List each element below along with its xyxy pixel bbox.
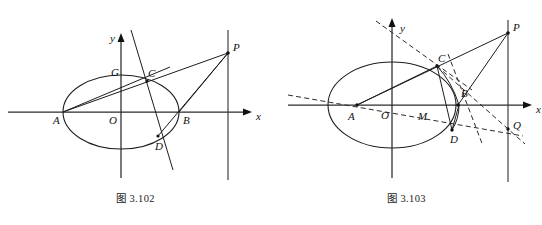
point-marker-p — [506, 31, 510, 35]
y-axis-label: y — [109, 32, 115, 44]
point-label-m: M — [417, 110, 428, 122]
point-label-o: O — [109, 114, 117, 126]
point-label-a: A — [347, 110, 355, 122]
point-label-a: A — [52, 114, 60, 126]
figure-caption-left: 图 3.102 — [0, 190, 271, 205]
point-marker-p — [226, 51, 230, 55]
x-axis-label: x — [255, 110, 261, 122]
y-axis-label: y — [399, 22, 405, 34]
point-marker-q — [506, 127, 509, 130]
figure-3-102: A O B C D G P x y 图 3.102 — [0, 0, 271, 225]
segment-cd-line — [131, 30, 173, 170]
x-axis-arrowhead — [243, 109, 252, 116]
figure-page: A O B C D G P x y 图 3.102 — [0, 0, 542, 225]
point-label-q: Q — [513, 119, 521, 131]
point-marker-c — [435, 64, 438, 67]
point-label-c: C — [438, 52, 446, 64]
x-axis-label: x — [535, 103, 541, 115]
figure-3-102-drawing: A O B C D G P x y — [0, 0, 271, 190]
point-label-d: D — [449, 133, 458, 145]
figure-3-103-drawing: A O M B C D P Q x y — [271, 0, 542, 190]
dashed-line-a-q — [288, 95, 523, 136]
point-label-b: B — [461, 87, 468, 99]
point-label-p: P — [232, 41, 240, 53]
point-label-p: P — [512, 21, 520, 33]
y-axis-arrowhead — [389, 18, 396, 27]
point-label-b: B — [183, 114, 190, 126]
point-marker-c — [145, 79, 148, 82]
point-marker-b — [456, 103, 459, 106]
segment-a-c — [357, 66, 437, 105]
point-label-g: G — [111, 66, 119, 78]
figure-3-103: A O M B C D P Q x y 图 3.103 — [271, 0, 542, 225]
x-axis-arrowhead — [523, 102, 532, 109]
figure-caption-right: 图 3.103 — [271, 190, 542, 205]
point-label-o: O — [381, 109, 389, 121]
point-label-d: D — [154, 140, 163, 152]
point-label-c: C — [148, 67, 156, 79]
point-marker-d — [156, 134, 159, 137]
point-marker-d — [450, 128, 453, 131]
y-axis-arrowhead — [118, 33, 125, 42]
point-marker-a — [355, 103, 358, 106]
